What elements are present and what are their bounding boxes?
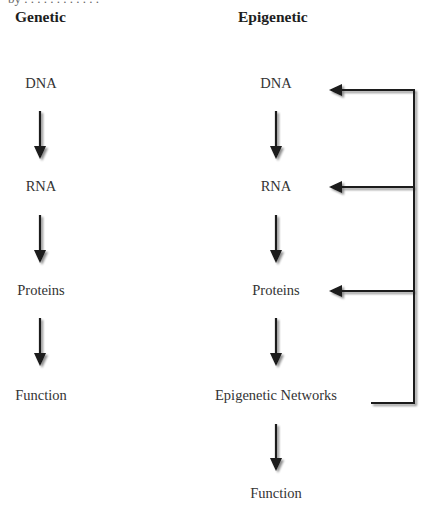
left-arrow-icon [329,84,342,96]
feedback-loop-connector [340,90,414,403]
down-arrow-icon [270,424,282,471]
down-arrow-icon [270,215,282,263]
down-arrow-icon [34,215,46,263]
left-arrow-icon [329,285,342,297]
down-arrow-icon [34,111,46,159]
down-arrow-icon [34,318,46,366]
down-arrow-icon [270,318,282,366]
arrows-layer [0,0,425,510]
left-arrow-icon [329,181,342,193]
down-arrow-icon [270,111,282,159]
